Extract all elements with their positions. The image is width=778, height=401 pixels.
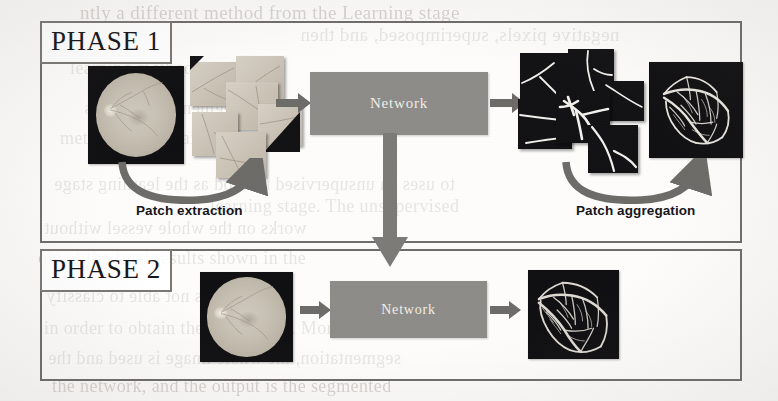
phase2-network-box: Network [330, 281, 487, 338]
patch-extraction-caption: Patch extraction [136, 203, 243, 218]
phase2-label: PHASE 2 [40, 249, 172, 292]
patch-aggregation-caption: Patch aggregation [576, 203, 695, 218]
phase2-output-vessel-map [528, 270, 619, 359]
phase1-label: PHASE 1 [40, 21, 172, 64]
phase2-network-label: Network [381, 302, 436, 318]
phase1-input-arrow-icon [276, 92, 312, 114]
phase2-input-arrow-icon [300, 300, 332, 320]
phase1-network-label: Network [370, 95, 428, 112]
phase2-output-arrow-icon [490, 300, 522, 320]
phase1-output-vessel-map [649, 62, 743, 158]
fundus-disc [96, 73, 177, 157]
phase2-input-fundus-image [200, 272, 293, 362]
figure-root: ntly a different method from the Learnin… [0, 0, 778, 401]
phase-connector-arrow-icon [368, 133, 412, 273]
fundus-vessels-icon [207, 277, 287, 357]
segmented-patch-tile [604, 81, 644, 121]
fundus-disc [207, 277, 287, 356]
segmented-vessels-icon [604, 81, 644, 121]
vessel-tree-icon [649, 62, 743, 156]
phase1-network-box: Network [310, 72, 488, 135]
phase1-input-fundus-image [88, 66, 184, 164]
fundus-vessels-icon [96, 73, 177, 154]
vessel-tree-icon [528, 270, 619, 361]
